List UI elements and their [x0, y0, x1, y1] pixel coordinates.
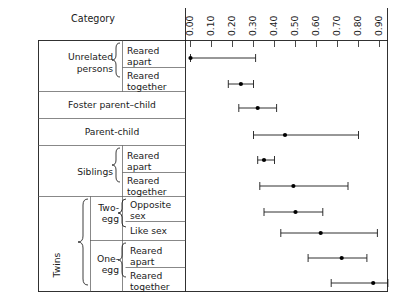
data-row: [239, 104, 277, 112]
sub-label-reared-together-2: together: [127, 81, 167, 92]
data-point-marker: [371, 281, 375, 285]
subgroup-label-one-egg: One-: [97, 253, 119, 264]
sub-label-twins-together: Reared: [130, 270, 162, 281]
x-tick-label: 0.40: [268, 15, 279, 36]
correlation-chart: 0.00 0.10 0.20 0.30 0.40 0.50 0.60 0.70 …: [0, 0, 402, 298]
chart-svg: 0.00 0.10 0.20 0.30 0.40 0.50 0.60 0.70 …: [0, 0, 402, 298]
brace-siblings: [112, 148, 120, 182]
data-row: [254, 131, 359, 139]
subgroup-label-one-egg-2: egg: [102, 264, 119, 275]
data-row: [188, 54, 255, 62]
x-axis-ticks: [191, 41, 380, 47]
brace-one-egg: [118, 243, 126, 277]
data-point-marker: [283, 133, 287, 137]
data-point-marker: [319, 231, 323, 235]
x-axis-tick-labels: 0.00 0.10 0.20 0.30 0.40 0.50 0.60 0.70 …: [184, 15, 384, 36]
group-label-unrelated-persons: Unrelated: [68, 51, 113, 62]
data-point-marker: [291, 184, 295, 188]
brace-two-egg: [118, 199, 126, 227]
data-row: [331, 279, 388, 287]
sub-label-siblings-together-2: together: [127, 186, 167, 197]
sub-label-reared-apart: Reared: [127, 45, 159, 56]
sub-label-opposite-sex-2: sex: [130, 210, 146, 221]
sub-label-siblings-apart: Reared: [127, 150, 159, 161]
x-tick-label: 0.50: [289, 15, 300, 36]
category-labels: Unrelated persons Reared apart Reared to…: [51, 43, 186, 292]
group-label-siblings: Siblings: [77, 166, 113, 177]
data-point-marker: [262, 158, 266, 162]
data-point-marker: [340, 256, 344, 260]
data-row: [264, 208, 323, 216]
sub-label-twins-together-2: together: [130, 281, 170, 292]
sub-label-siblings-apart-2: apart: [127, 161, 152, 172]
subgroup-label-two-egg-2: egg: [102, 213, 119, 224]
data-point-marker: [256, 106, 260, 110]
x-tick-label: 0.60: [310, 15, 321, 36]
x-tick-label: 0.70: [331, 15, 342, 36]
sub-label-twins-apart-2: apart: [130, 256, 155, 267]
group-label-unrelated-persons-2: persons: [77, 63, 113, 74]
group-label-foster-parent-child: Foster parent–child: [68, 99, 156, 110]
sub-label-reared-apart-2: apart: [127, 56, 152, 67]
sub-label-twins-apart: Reared: [130, 245, 162, 256]
x-tick-label: 0.90: [373, 15, 384, 36]
data-row: [228, 80, 253, 88]
data-point-marker: [239, 82, 243, 86]
brace-twins: [78, 199, 88, 285]
data-row: [260, 182, 348, 190]
x-tick-label: 0.20: [226, 15, 237, 36]
x-tick-label: 0.10: [205, 15, 216, 36]
subgroup-label-two-egg: Two-: [97, 202, 119, 213]
group-label-twins: Twins: [51, 252, 62, 278]
data-row: [258, 156, 275, 164]
data-row: [308, 254, 367, 262]
category-header: Category: [71, 13, 115, 24]
sub-label-reared-together: Reared: [127, 70, 159, 81]
data-point-marker: [293, 210, 297, 214]
data-row: [281, 229, 378, 237]
sub-label-siblings-together: Reared: [127, 175, 159, 186]
data-points-layer: [188, 54, 388, 287]
brace-unrelated: [112, 43, 120, 77]
sub-label-like-sex: Like sex: [130, 225, 168, 236]
sub-label-opposite-sex: Opposite: [130, 199, 171, 210]
group-label-parent-child: Parent-child: [85, 126, 140, 137]
data-point-marker: [188, 56, 192, 60]
x-tick-label: 0.30: [247, 15, 258, 36]
x-tick-label: 0.80: [352, 15, 363, 36]
